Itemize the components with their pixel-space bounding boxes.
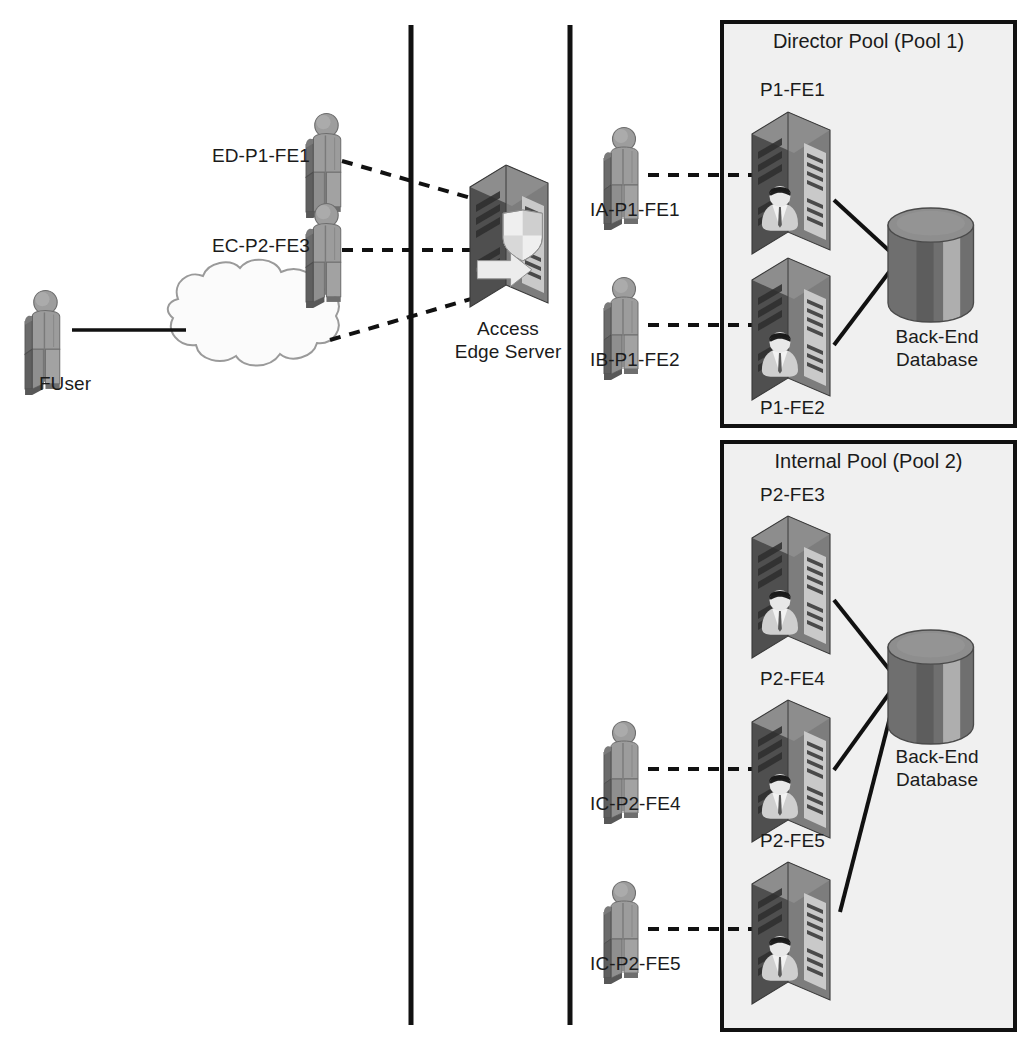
- server-user-icon-p2-fe5: [752, 862, 830, 1004]
- label-ib-p1-fe2: IB-P1-FE2: [590, 348, 680, 371]
- label-ia-p1-fe1: IA-P1-FE1: [590, 198, 680, 221]
- label-access-edge-server-line1: Access: [443, 317, 573, 340]
- person-icon-ec-p2-fe3: [306, 204, 341, 309]
- server-user-icon-p2-fe4: [752, 700, 830, 842]
- pool-title-director: Director Pool (Pool 1): [722, 29, 1015, 53]
- server-user-icon-p1-fe2: [752, 258, 830, 400]
- label-ed-p1-fe1: ED-P1-FE1: [110, 144, 310, 167]
- label-p1-fe1: P1-FE1: [760, 78, 825, 101]
- person-icon-ed-p1-fe1: [306, 114, 341, 219]
- server-user-icon-p1-fe1: [752, 112, 830, 254]
- pool-title-internal: Internal Pool (Pool 2): [722, 449, 1015, 473]
- database-cylinder-icon-pool2: [888, 630, 974, 744]
- label-backend-database-pool1-line2: Database: [872, 348, 1002, 371]
- label-p2-fe3: P2-FE3: [760, 483, 825, 506]
- label-p1-fe2: P1-FE2: [760, 396, 825, 419]
- server-user-icon-p2-fe3: [752, 516, 830, 658]
- label-p2-fe4: P2-FE4: [760, 667, 825, 690]
- label-ec-p2-fe3: EC-P2-FE3: [110, 234, 310, 257]
- label-ic-p2-fe5: IC-P2-FE5: [590, 952, 681, 975]
- label-ic-p2-fe4: IC-P2-FE4: [590, 792, 681, 815]
- label-backend-database-pool2-line1: Back-End: [872, 745, 1002, 768]
- label-access-edge-server-line2: Edge Server: [433, 340, 583, 363]
- label-p2-fe5: P2-FE5: [760, 829, 825, 852]
- server-shield-icon-edge: [470, 165, 548, 307]
- diagram-canvas: FUser ED-P1-FE1 EC-P2-FE3 Access Edge Se…: [0, 0, 1036, 1047]
- label-fuser: FUser: [10, 372, 120, 395]
- database-cylinder-icon-pool1: [888, 208, 974, 322]
- label-backend-database-pool2-line2: Database: [872, 768, 1002, 791]
- label-backend-database-pool1-line1: Back-End: [872, 325, 1002, 348]
